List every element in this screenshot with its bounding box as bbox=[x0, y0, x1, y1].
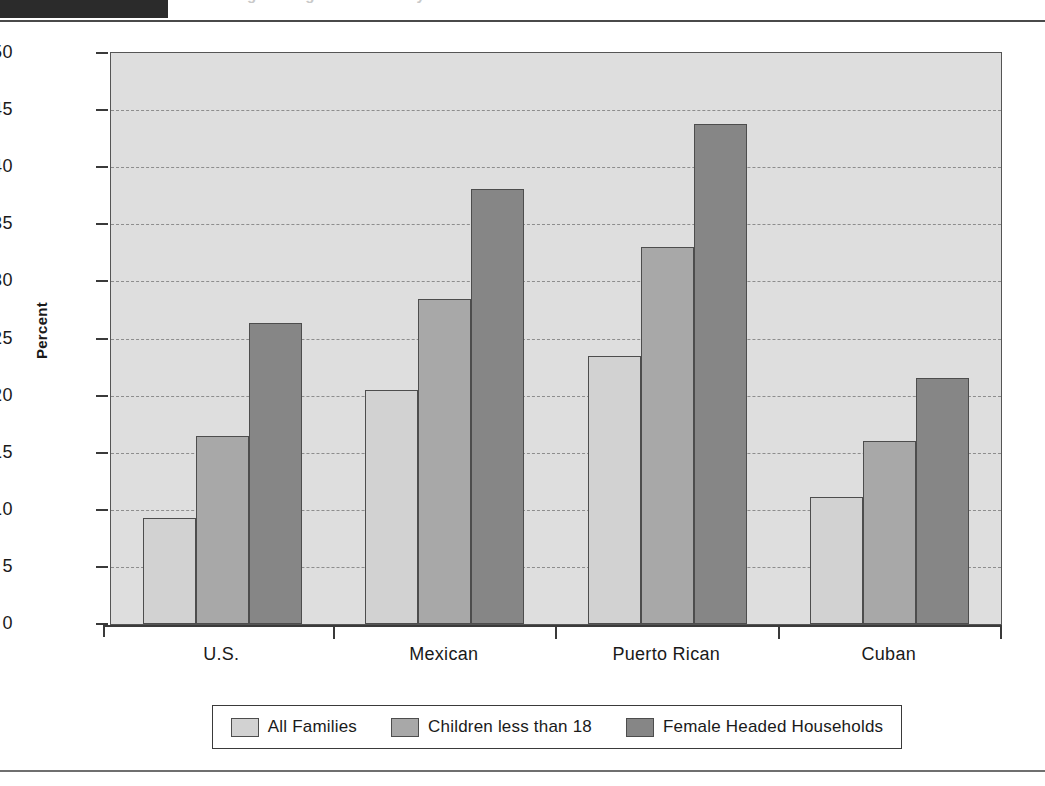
bar-chart-figure: Percent All FamiliesChildren less than 1… bbox=[0, 22, 1045, 762]
y-axis-tick-mark bbox=[96, 223, 108, 225]
y-axis-tick-label: 50 bbox=[0, 43, 13, 61]
legend-label: All Families bbox=[268, 717, 357, 737]
x-axis-origin-cap bbox=[103, 625, 113, 637]
y-axis-tick-label: 20 bbox=[0, 386, 13, 404]
bar-puerto-rican-series-2 bbox=[694, 124, 747, 624]
x-axis-category-label: U.S. bbox=[101, 644, 341, 665]
plot-area bbox=[110, 52, 1002, 625]
chart-legend: All FamiliesChildren less than 18Female … bbox=[212, 705, 902, 749]
x-axis-category-label: Puerto Rican bbox=[546, 644, 786, 665]
y-gridline bbox=[111, 396, 1001, 397]
x-axis-category-label: Mexican bbox=[324, 644, 564, 665]
y-axis-tick-label: 45 bbox=[0, 100, 13, 118]
x-axis-tick-mark bbox=[778, 625, 780, 639]
y-axis-tick-label: 5 bbox=[0, 557, 13, 575]
legend-item: Female Headed Households bbox=[626, 717, 883, 737]
y-axis-tick-label: 30 bbox=[0, 271, 13, 289]
y-axis-tick-mark bbox=[96, 566, 108, 568]
bar-cuban-series-0 bbox=[810, 497, 863, 624]
bar-u-s-series-0 bbox=[143, 518, 196, 624]
legend-item: Children less than 18 bbox=[391, 717, 592, 737]
y-gridline bbox=[111, 167, 1001, 168]
x-axis-tick-mark bbox=[555, 625, 557, 639]
y-gridline bbox=[111, 110, 1001, 111]
y-axis-tick-mark bbox=[96, 338, 108, 340]
bar-mexican-series-0 bbox=[365, 390, 418, 624]
y-axis-tick-label: 15 bbox=[0, 443, 13, 461]
y-axis-tick-label: 0 bbox=[0, 614, 13, 632]
x-axis-category-label: Cuban bbox=[769, 644, 1009, 665]
y-axis-tick-label: 25 bbox=[0, 329, 13, 347]
y-gridline bbox=[111, 224, 1001, 225]
legend-swatch-icon bbox=[391, 718, 419, 737]
y-axis-tick-mark bbox=[96, 109, 108, 111]
page-header-strip: Percentage Living Below Poverty Level bbox=[0, 0, 1045, 22]
y-axis-tick-mark bbox=[96, 623, 108, 625]
y-axis-tick-label: 40 bbox=[0, 157, 13, 175]
x-axis-tick-mark bbox=[333, 625, 335, 639]
legend-swatch-icon bbox=[626, 718, 654, 737]
bar-puerto-rican-series-1 bbox=[641, 247, 694, 624]
page-footer-divider bbox=[0, 770, 1045, 772]
y-axis-tick-label: 10 bbox=[0, 500, 13, 518]
y-axis-tick-mark bbox=[96, 509, 108, 511]
y-axis-tick-label: 35 bbox=[0, 214, 13, 232]
x-axis-tick-mark bbox=[1000, 625, 1002, 639]
bar-cuban-series-1 bbox=[863, 441, 916, 624]
y-axis-tick-mark bbox=[96, 52, 108, 54]
page-header-title: Percentage Living Below Poverty Level bbox=[182, 0, 469, 3]
legend-label: Female Headed Households bbox=[663, 717, 883, 737]
bar-puerto-rican-series-0 bbox=[588, 356, 641, 624]
header-tab-block bbox=[0, 0, 168, 18]
bar-mexican-series-2 bbox=[471, 189, 524, 624]
legend-item: All Families bbox=[231, 717, 357, 737]
y-axis-tick-mark bbox=[96, 395, 108, 397]
bar-u-s-series-2 bbox=[249, 323, 302, 624]
bar-u-s-series-1 bbox=[196, 436, 249, 624]
y-axis-title: Percent bbox=[33, 281, 50, 381]
bar-mexican-series-1 bbox=[418, 299, 471, 624]
legend-swatch-icon bbox=[231, 718, 259, 737]
y-axis-tick-mark bbox=[96, 280, 108, 282]
y-axis-tick-mark bbox=[96, 166, 108, 168]
y-gridline bbox=[111, 281, 1001, 282]
y-axis-tick-mark bbox=[96, 452, 108, 454]
bar-cuban-series-2 bbox=[916, 378, 969, 624]
y-gridline bbox=[111, 339, 1001, 340]
legend-label: Children less than 18 bbox=[428, 717, 592, 737]
